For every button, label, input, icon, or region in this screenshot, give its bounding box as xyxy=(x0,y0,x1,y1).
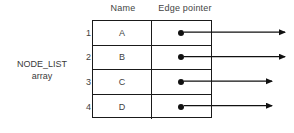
row-index: 4 xyxy=(82,101,91,113)
row-index: 2 xyxy=(82,51,91,63)
edge-pointer-cell xyxy=(152,95,212,120)
pointer-dot-icon xyxy=(178,30,184,36)
name-cell: A xyxy=(93,21,152,45)
table-row: 3 C xyxy=(93,70,211,95)
array-label-line-2: array xyxy=(6,70,78,82)
name-cell: D xyxy=(93,95,152,120)
row-index: 1 xyxy=(82,27,91,39)
column-header-edge-pointer: Edge pointer xyxy=(152,3,218,13)
table-row: 1 A xyxy=(93,21,211,46)
array-label: NODE_LIST array xyxy=(6,58,78,82)
pointer-dot-icon xyxy=(178,79,184,85)
column-header-name: Name xyxy=(105,3,141,13)
edge-pointer-cell xyxy=(152,21,212,45)
pointer-dot-icon xyxy=(178,54,184,60)
diagram-canvas: Name Edge pointer NODE_LIST array 1 A 2 … xyxy=(0,0,294,133)
row-index: 3 xyxy=(82,76,91,88)
table-row: 2 B xyxy=(93,46,211,71)
edge-pointer-cell xyxy=(152,46,212,70)
edge-pointer-cell xyxy=(152,70,212,94)
array-label-line-1: NODE_LIST xyxy=(6,58,78,70)
node-list-table: 1 A 2 B 3 C 4 D xyxy=(92,20,212,118)
table-row: 4 D xyxy=(93,95,211,120)
pointer-dot-icon xyxy=(178,104,184,110)
name-cell: B xyxy=(93,46,152,70)
name-cell: C xyxy=(93,70,152,94)
